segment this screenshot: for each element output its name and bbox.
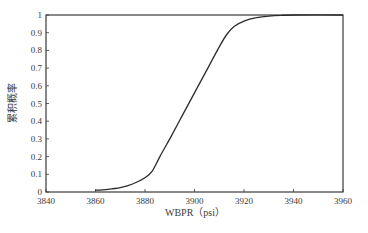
- y-tick-label: 0.7: [31, 63, 43, 73]
- y-tick-label: 0.2: [31, 152, 42, 162]
- x-tick-label: 3900: [186, 196, 205, 206]
- x-tick-label: 3960: [334, 196, 353, 206]
- x-tick-label: 3940: [285, 196, 304, 206]
- y-tick-label: 0.3: [31, 134, 43, 144]
- y-tick-label: 1: [38, 10, 43, 20]
- x-tick-label: 3920: [235, 196, 254, 206]
- y-tick-label: 0.6: [31, 81, 43, 91]
- y-tick-label: 0: [38, 187, 43, 197]
- plot-frame: [46, 15, 343, 192]
- x-tick-label: 3880: [136, 196, 155, 206]
- cdf-curve: [96, 15, 344, 190]
- x-axis-label: WBPR（psi）: [165, 207, 225, 218]
- y-axis-label: 累积概率: [6, 83, 18, 123]
- cdf-chart: 3840386038803900392039403960 00.10.20.30…: [0, 0, 368, 233]
- y-tick-label: 0.5: [31, 99, 43, 109]
- y-tick-label: 0.1: [31, 169, 42, 179]
- x-tick-label: 3840: [37, 196, 56, 206]
- y-tick-label: 0.8: [31, 45, 43, 55]
- y-tick-label: 0.4: [31, 116, 43, 126]
- x-tick-label: 3860: [87, 196, 106, 206]
- y-tick-label: 0.9: [31, 28, 43, 38]
